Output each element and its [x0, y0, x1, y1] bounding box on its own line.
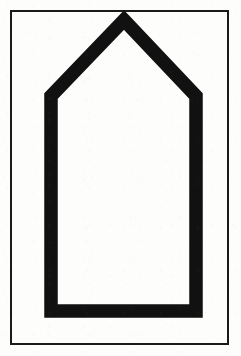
paper-background	[0, 0, 241, 356]
figure-canvas	[0, 0, 241, 356]
figure-root: Pentagon house-shape outline inside rect…	[0, 0, 241, 356]
